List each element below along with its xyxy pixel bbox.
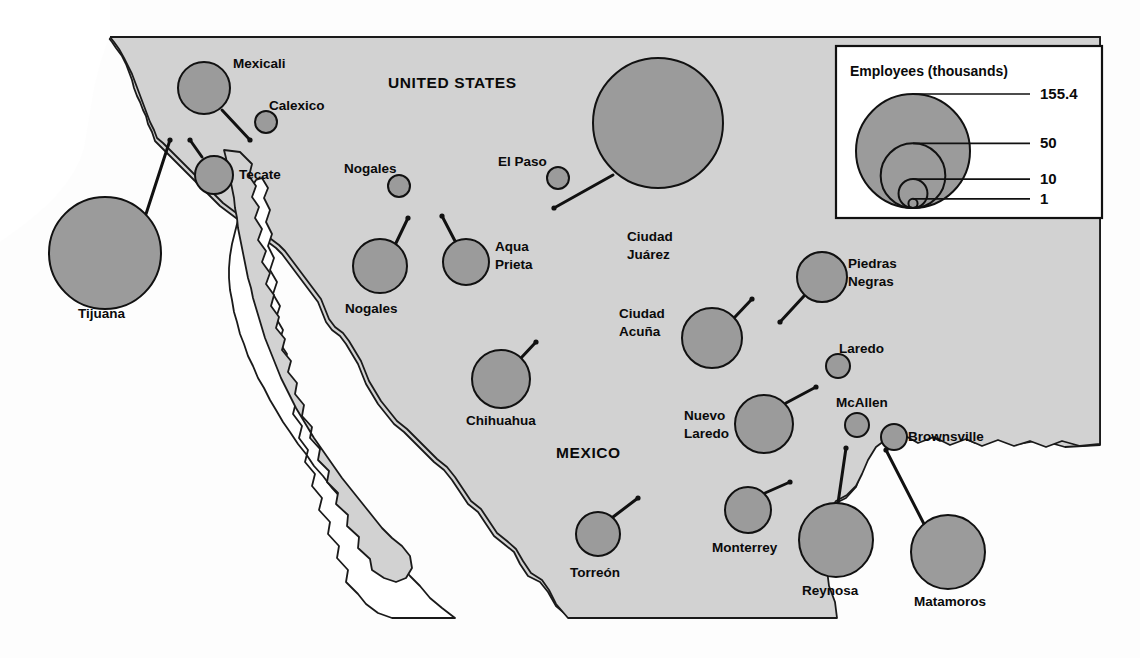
city-label-calexico: Calexico — [269, 98, 325, 113]
city-bubble-tijuana[interactable] — [49, 197, 161, 309]
city-label-mcallen: McAllen — [836, 395, 888, 410]
city-bubble-torre-n[interactable] — [576, 512, 620, 556]
city-bubble-tecate[interactable] — [195, 156, 233, 194]
legend-circle-155-4 — [856, 94, 970, 208]
city-label-el-paso: El Paso — [498, 154, 547, 169]
city-bubble-nogales-us[interactable] — [388, 175, 410, 197]
city-bubble-monterrey[interactable] — [725, 487, 771, 533]
leader-line — [146, 140, 170, 214]
city-bubble-agua-prieta[interactable] — [443, 239, 489, 285]
legend-circles — [856, 94, 970, 208]
city-bubble-mcallen[interactable] — [845, 413, 869, 437]
city-label-laredo: Laredo — [839, 341, 884, 356]
legend-value-10: 10 — [1040, 170, 1057, 187]
legend-value-155-4: 155.4 — [1040, 85, 1078, 102]
leader-anchor-dot — [439, 213, 444, 218]
city-label-torre-n: Torreón — [570, 565, 620, 580]
city-bubble-calexico[interactable] — [255, 111, 277, 133]
city-label-chihuahua: Chihuahua — [466, 413, 536, 428]
city-bubble-brownsville[interactable] — [881, 424, 907, 450]
leader-anchor-dot — [813, 384, 818, 389]
leader-line — [886, 450, 924, 524]
leader-anchor-dot — [843, 445, 848, 450]
city-label-reynosa: Reynosa — [802, 583, 859, 598]
city-bubble-el-paso[interactable] — [547, 167, 569, 189]
city-bubble-ciudad-ju-rez[interactable] — [593, 58, 723, 188]
country-label-mexico: MEXICO — [556, 444, 621, 461]
city-bubble-matamoros[interactable] — [911, 515, 985, 589]
city-bubble-nogales-mx[interactable] — [353, 239, 407, 293]
leader-anchor-dot — [635, 495, 640, 500]
leader-anchor-dot — [777, 319, 782, 324]
city-label-tijuana: Tijuana — [78, 306, 126, 321]
leader-anchor-dot — [533, 339, 538, 344]
border-region-map: MexicaliCalexicoTecateTijuanaNogalesNoga… — [0, 0, 1140, 658]
leader-anchor-dot — [787, 479, 792, 484]
city-bubble-ciudad-acu-a[interactable] — [682, 308, 742, 368]
city-label-monterrey: Monterrey — [712, 540, 778, 555]
city-label-matamoros: Matamoros — [914, 594, 986, 609]
city-bubble-laredo[interactable] — [826, 354, 850, 378]
leader-anchor-dot — [551, 205, 556, 210]
legend-value-1: 1 — [1040, 190, 1048, 207]
city-bubble-nuevo-laredo[interactable] — [735, 395, 793, 453]
city-bubble-piedras-negras[interactable] — [797, 252, 847, 302]
city-bubble-mexicali[interactable] — [178, 62, 230, 114]
leader-anchor-dot — [247, 137, 252, 142]
legend: Employees (thousands) 155.450101 — [836, 46, 1102, 218]
city-label-nogales-us: Nogales — [344, 161, 397, 176]
city-label-nogales-mx: Nogales — [345, 301, 398, 316]
leader-anchor-dot — [167, 137, 172, 142]
city-bubble-reynosa[interactable] — [799, 503, 873, 577]
leader-anchor-dot — [187, 137, 192, 142]
legend-title: Employees (thousands) — [850, 63, 1008, 79]
leader-anchor-dot — [749, 296, 754, 301]
leader-anchor-dot — [405, 215, 410, 220]
city-label-mexicali: Mexicali — [233, 56, 286, 71]
legend-value-50: 50 — [1040, 134, 1057, 151]
city-label-brownsville: Brownsville — [908, 429, 984, 444]
map-figure: MexicaliCalexicoTecateTijuanaNogalesNoga… — [0, 0, 1140, 658]
country-label-united-states: UNITED STATES — [388, 74, 517, 91]
city-label-tecate: Tecate — [239, 167, 281, 182]
city-bubble-chihuahua[interactable] — [472, 350, 530, 408]
